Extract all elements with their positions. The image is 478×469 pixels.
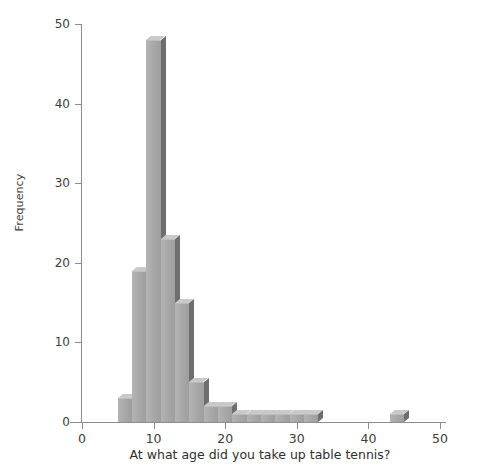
histogram-bar — [146, 40, 160, 422]
y-tick-label: 0 — [40, 416, 70, 428]
bar-front-face — [247, 414, 261, 422]
bar-top-edge — [304, 414, 318, 415]
x-tick-mark — [368, 423, 369, 429]
histogram-bar — [390, 414, 404, 422]
x-tick-label: 50 — [420, 433, 460, 446]
bar-front-face — [218, 406, 232, 422]
histogram-bar — [204, 406, 218, 422]
histogram-bar — [304, 414, 318, 422]
bar-top-edge — [275, 414, 289, 415]
y-tick-mark — [75, 422, 81, 423]
bar-top-edge — [189, 382, 203, 383]
bar-top-edge — [261, 414, 275, 415]
bar-top-edge — [132, 271, 146, 272]
bar-top-edge — [118, 398, 132, 399]
bar-front-face — [290, 414, 304, 422]
x-tick-label: 0 — [62, 433, 102, 446]
x-tick-mark — [82, 423, 83, 429]
bar-top-edge — [218, 406, 232, 407]
bar-top-edge — [290, 414, 304, 415]
y-tick-label: 10 — [40, 336, 70, 348]
y-tick-mark — [75, 342, 81, 343]
histogram-figure: Frequency 01020304050 01020304050 At wha… — [0, 0, 478, 469]
bar-top-edge — [175, 303, 189, 304]
bar-front-face — [304, 414, 318, 422]
y-axis-label: Frequency — [13, 148, 26, 258]
histogram-bar — [161, 239, 175, 422]
y-axis-line — [81, 24, 82, 423]
y-tick-mark — [75, 104, 81, 105]
bar-front-face — [232, 414, 246, 422]
bar-front-face — [175, 303, 189, 422]
bar-front-face — [275, 414, 289, 422]
x-tick-label: 40 — [348, 433, 388, 446]
histogram-bar — [290, 414, 304, 422]
histogram-bar — [189, 382, 203, 422]
bar-front-face — [189, 382, 203, 422]
bar-top-edge — [161, 239, 175, 240]
y-tick-label: 50 — [40, 18, 70, 30]
bar-top-edge — [204, 406, 218, 407]
x-tick-label: 30 — [277, 433, 317, 446]
histogram-bar — [118, 398, 132, 422]
x-tick-mark — [225, 423, 226, 429]
bar-front-face — [261, 414, 275, 422]
histogram-bar — [261, 414, 275, 422]
bar-front-face — [132, 271, 146, 422]
bar-top-edge — [247, 414, 261, 415]
bar-front-face — [204, 406, 218, 422]
y-tick-mark — [75, 263, 81, 264]
histogram-bar — [247, 414, 261, 422]
bar-front-face — [161, 239, 175, 422]
histogram-bar — [232, 414, 246, 422]
y-tick-label: 20 — [40, 257, 70, 269]
x-tick-mark — [297, 423, 298, 429]
plot-area: 01020304050 01020304050 — [82, 24, 440, 422]
histogram-bar — [132, 271, 146, 422]
y-tick-label: 30 — [40, 177, 70, 189]
bar-top-edge — [390, 414, 404, 415]
x-tick-label: 10 — [134, 433, 174, 446]
y-tick-label: 40 — [40, 98, 70, 110]
bar-front-face — [146, 40, 160, 422]
histogram-bar — [275, 414, 289, 422]
histogram-bar — [175, 303, 189, 422]
x-tick-mark — [154, 423, 155, 429]
bar-top-edge — [232, 414, 246, 415]
bar-front-face — [118, 398, 132, 422]
bar-top-edge — [146, 40, 160, 41]
x-axis-label: At what age did you take up table tennis… — [60, 447, 460, 462]
histogram-bar — [218, 406, 232, 422]
x-axis-line — [70, 422, 446, 423]
y-tick-mark — [75, 183, 81, 184]
y-tick-mark — [75, 24, 81, 25]
x-tick-mark — [440, 423, 441, 429]
x-tick-label: 20 — [205, 433, 245, 446]
bar-front-face — [390, 414, 404, 422]
